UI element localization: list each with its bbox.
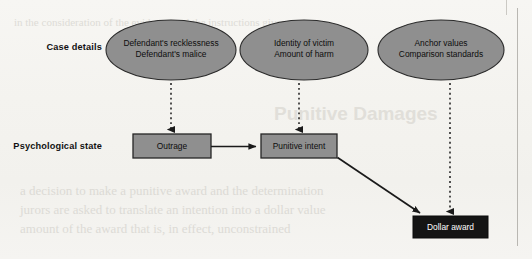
node-outrage xyxy=(133,134,211,158)
node-dollar-award xyxy=(413,216,488,238)
node-victim-harm xyxy=(240,20,368,80)
node-punitive-intent xyxy=(261,134,337,158)
node-anchor-values xyxy=(378,20,504,80)
figure-canvas: in the consideration of the evidence and… xyxy=(0,0,532,259)
arrow-punitive-intent-to-dollar-award xyxy=(338,158,421,214)
row-label-case-details: Case details xyxy=(0,42,102,52)
node-defendant-conduct xyxy=(106,20,236,80)
row-label-psychological-state: Psychological state xyxy=(0,141,102,151)
diagram-graphics xyxy=(0,0,532,259)
